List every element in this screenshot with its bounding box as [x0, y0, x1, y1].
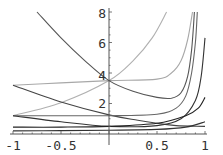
x-tick-label: 0.5: [145, 138, 168, 153]
x-tick-label: 1: [201, 138, 209, 153]
x-tick-label: -1: [5, 138, 21, 153]
x-tick-label: -0.5: [45, 138, 76, 153]
line-chart: -1 -0.5 0.5 1 2 4 6 8: [0, 0, 223, 155]
y-tick-label: 2: [98, 96, 106, 111]
series-line-curve-1: [13, 12, 167, 116]
y-tick-label: 4: [98, 68, 106, 83]
x-tick-labels: -1 -0.5 0.5 1: [5, 138, 209, 153]
y-tick-label: 8: [98, 6, 106, 21]
series-line-curve-3: [37, 12, 194, 99]
y-tick-labels: 2 4 6 8: [98, 6, 106, 111]
y-tick-label: 6: [98, 36, 106, 51]
axes: [10, 8, 207, 145]
